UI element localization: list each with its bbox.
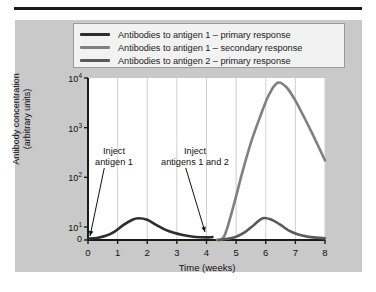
x-tick-label-3: 3 <box>169 247 185 258</box>
annotation-inject-antigen-1-line1: Inject <box>84 146 144 157</box>
y-tick-label-2: 102 <box>52 171 82 183</box>
annotation-inject-antigen-1: Inject antigen 1 <box>84 146 144 168</box>
annotation-inject-antigens-1-and-2-line2: antigens 1 and 2 <box>146 157 244 168</box>
annotation-inject-antigens-1-and-2: Inject antigens 1 and 2 <box>146 146 244 168</box>
y-tick-label-4: 104 <box>52 72 82 84</box>
x-tick-label-0: 0 <box>80 247 96 258</box>
y-tick-label-3: 103 <box>52 122 82 134</box>
x-axis-title: Time (weeks) <box>88 262 326 273</box>
x-tick-label-1: 1 <box>110 247 126 258</box>
x-tick-label-4: 4 <box>199 247 215 258</box>
x-tick-label-8: 8 <box>317 247 333 258</box>
x-tick-label-7: 7 <box>287 247 303 258</box>
x-tick-label-6: 6 <box>258 247 274 258</box>
figure-container: Antibodies to antigen 1 – primary respon… <box>0 0 376 292</box>
y-axis-title: Antibody concentration (arbitrary units) <box>11 59 33 179</box>
y-axis-title-line2: (arbitrary units) <box>22 59 33 179</box>
annotation-inject-antigens-1-and-2-line1: Inject <box>146 146 244 157</box>
x-tick-label-5: 5 <box>228 247 244 258</box>
y-tick-label-1: 101 <box>52 221 82 233</box>
annotation-inject-antigen-1-line2: antigen 1 <box>84 157 144 168</box>
y-axis-title-line1: Antibody concentration <box>11 59 22 179</box>
y-tick-label-0: 0 <box>52 234 82 244</box>
x-tick-label-2: 2 <box>139 247 155 258</box>
